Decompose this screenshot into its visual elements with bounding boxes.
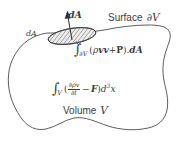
surface-integral-vv: vv [98, 45, 108, 55]
area-element-label: dA [26, 30, 37, 38]
volume-element-d: d [101, 84, 107, 94]
surface-integral-dA: dA [129, 45, 142, 55]
momentum-density-derivative: ∂ρv∂t [68, 82, 81, 97]
volume-integral-equation: ∫V(∂ρv∂t−F)d3x [52, 80, 116, 97]
volume-element-x: x [110, 84, 115, 94]
volume-integral-subscript: V [57, 89, 62, 97]
surface-label: Surface∂V [108, 12, 159, 23]
volume-label: VolumeV [63, 105, 108, 116]
surface-integral-pressure-tensor: P [116, 45, 123, 55]
surface-label-text: Surface [108, 12, 142, 23]
surface-boundary-symbol: ∂V [146, 11, 159, 23]
figure-canvas: dA dA Surface∂V ∫∂V(ρvv+P).dA ∫V(∂ρv∂t−F… [0, 0, 187, 150]
volume-label-text: Volume [63, 105, 96, 116]
normal-vector-label: dA [68, 10, 82, 20]
volume-symbol: V [100, 104, 108, 116]
surface-integral-equation: ∫∂V(ρvv+P).dA [74, 41, 143, 55]
volume-integral-minus: − [80, 84, 91, 94]
derivative-denominator: ∂t [68, 90, 81, 97]
volume-element-exponent: 3 [107, 82, 111, 89]
surface-integral-subscript: ∂V [79, 50, 87, 58]
